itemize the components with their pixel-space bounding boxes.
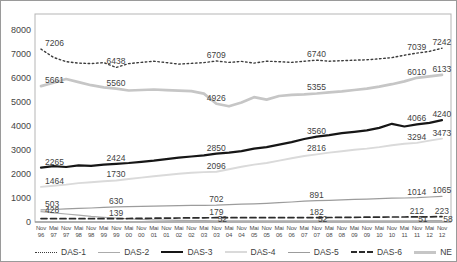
data-label-das-5: 1065: [432, 186, 451, 195]
data-label-ne: 6133: [432, 65, 451, 74]
series-line-das-3: [41, 120, 442, 167]
data-label-ne: 5560: [107, 79, 126, 88]
data-label-das-2: 51: [418, 215, 427, 224]
legend-label-das-4: DAS-4: [251, 247, 276, 257]
legend-item-das-1: DAS-1: [35, 247, 86, 257]
legend-item-das-3: DAS-3: [161, 247, 212, 257]
data-label-das-5: 891: [309, 191, 323, 200]
data-label-das-1: 6740: [307, 50, 326, 59]
data-label-das-4: 3473: [432, 129, 451, 138]
legend-swatch-das-3: [161, 251, 183, 253]
data-label-das-1: 6438: [107, 57, 126, 66]
legend-item-das-2: DAS-2: [98, 247, 149, 257]
data-label-das-4: 1730: [107, 170, 126, 179]
data-label-das-6: 223: [435, 207, 449, 216]
legend-label-ne: NE: [440, 247, 452, 257]
data-label-das-1: 7039: [407, 43, 426, 52]
data-label-ne: 5661: [45, 76, 64, 85]
data-label-das-6: 179: [209, 208, 223, 217]
legend-label-das-5: DAS-5: [314, 247, 339, 257]
x-tick-label: Nov12: [435, 225, 449, 239]
series-line-das-4: [41, 139, 442, 187]
y-tick-label: 3000: [3, 145, 31, 155]
data-label-das-5: 503: [45, 200, 59, 209]
series-line-das-5: [41, 196, 442, 210]
legend-swatch-ne: [414, 251, 436, 254]
legend-swatch-das-4: [225, 251, 247, 253]
plot-border: [35, 14, 451, 222]
legend-item-das-4: DAS-4: [225, 247, 276, 257]
y-tick-label: 8000: [3, 25, 31, 35]
data-label-das-1: 7242: [432, 38, 451, 47]
data-label-das-4: 2096: [207, 162, 226, 171]
data-label-das-6: 182: [309, 208, 323, 217]
data-label-das-3: 2850: [207, 144, 226, 153]
legend-item-das-6: DAS-6: [351, 247, 402, 257]
data-label-das-1: 7206: [45, 39, 64, 48]
data-label-das-3: 4240: [432, 110, 451, 119]
y-tick-label: 5000: [3, 97, 31, 107]
data-label-das-4: 1464: [45, 177, 64, 186]
legend-swatch-das-1: [35, 252, 57, 253]
data-label-ne: 4926: [207, 94, 226, 103]
data-label-das-1: 6709: [207, 51, 226, 60]
data-label-das-4: 2816: [307, 144, 326, 153]
data-label-das-5: 630: [109, 197, 123, 206]
legend-label-das-6: DAS-6: [377, 247, 402, 257]
series-line-das-1: [41, 48, 442, 67]
y-tick-label: 2000: [3, 169, 31, 179]
legend-label-das-2: DAS-2: [124, 247, 149, 257]
y-tick-label: 4000: [3, 121, 31, 131]
data-label-das-6: 212: [410, 207, 424, 216]
data-label-das-4: 3294: [407, 133, 426, 142]
plot-area: [1, 1, 457, 262]
data-label-ne: 6010: [407, 68, 426, 77]
legend-swatch-das-2: [98, 252, 120, 253]
data-label-ne: 5355: [307, 83, 326, 92]
data-label-das-5: 1014: [407, 188, 426, 197]
legend-item-das-5: DAS-5: [288, 247, 339, 257]
legend: DAS-1DAS-2DAS-3DAS-4DAS-5DAS-6NE: [35, 244, 452, 260]
chart-canvas: 010002000300040005000600070008000 Nov96M…: [0, 0, 457, 262]
y-tick-label: 6000: [3, 73, 31, 83]
legend-label-das-1: DAS-1: [61, 247, 86, 257]
data-label-das-3: 3560: [307, 127, 326, 136]
data-label-das-3: 2424: [107, 154, 126, 163]
data-label-das-2: 58: [443, 215, 452, 224]
data-label-das-6: 139: [109, 209, 123, 218]
legend-swatch-das-5: [288, 252, 310, 253]
y-tick-label: 1000: [3, 193, 31, 203]
legend-item-ne: NE: [414, 247, 452, 257]
data-label-das-5: 702: [209, 195, 223, 204]
y-tick-label: 0: [3, 217, 31, 227]
legend-label-das-3: DAS-3: [187, 247, 212, 257]
y-tick-label: 7000: [3, 49, 31, 59]
legend-swatch-das-6: [351, 251, 373, 253]
data-label-das-3: 2265: [45, 158, 64, 167]
data-label-das-3: 4066: [407, 114, 426, 123]
series-line-ne: [41, 75, 442, 107]
